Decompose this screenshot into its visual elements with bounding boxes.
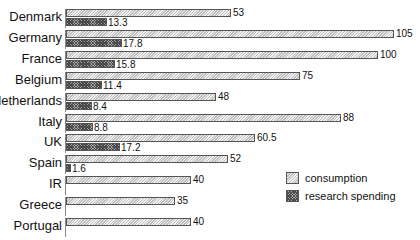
value-label-consumption: 60.5 (257, 133, 276, 143)
bar-consumption (66, 134, 255, 142)
category-label: Spain (29, 156, 62, 170)
bar-consumption (66, 155, 228, 163)
value-label-research-spending: 15.8 (116, 60, 135, 70)
legend-swatch-consumption (286, 172, 299, 184)
category-label: Belgium (15, 73, 62, 87)
bar-chart: Denmark5313.3Germany10517.8France10015.8… (0, 0, 420, 240)
bar-consumption (66, 9, 231, 17)
value-label-consumption: 35 (177, 196, 188, 206)
value-label-research-spending: 17.2 (121, 143, 140, 153)
category-label: UK (44, 135, 62, 149)
value-label-research-spending: 11.4 (103, 81, 122, 91)
legend-label-consumption: consumption (305, 172, 367, 184)
category-label: France (22, 52, 62, 66)
legend-swatch-research-spending (286, 190, 299, 202)
bar-research-spending (66, 102, 92, 110)
bar-consumption (66, 176, 191, 184)
bar-consumption (66, 93, 216, 101)
category-label: Denmark (9, 10, 62, 24)
value-label-consumption: 75 (302, 71, 313, 81)
value-label-research-spending: 1.6 (72, 164, 86, 174)
category-label: Portugal (14, 219, 62, 233)
bar-research-spending (66, 81, 102, 89)
bar-consumption (66, 30, 394, 38)
value-label-consumption: 40 (193, 217, 204, 227)
bar-research-spending (66, 60, 115, 68)
legend-label-research-spending: research spending (305, 190, 396, 202)
value-label-research-spending: 13.3 (108, 18, 127, 28)
value-label-consumption: 105 (396, 29, 413, 39)
value-label-consumption: 48 (218, 92, 229, 102)
bar-research-spending (66, 143, 120, 151)
value-label-consumption: 40 (193, 175, 204, 185)
value-label-consumption: 88 (343, 113, 354, 123)
category-label: Netherlands (0, 94, 62, 108)
category-label: Germany (9, 31, 62, 45)
bar-research-spending (66, 39, 122, 47)
bar-consumption (66, 51, 378, 59)
bar-consumption (66, 218, 191, 226)
value-label-research-spending: 17.8 (123, 39, 142, 49)
value-label-consumption: 100 (380, 50, 397, 60)
value-label-research-spending: 8.8 (94, 123, 108, 133)
category-label: IR (49, 177, 62, 191)
bar-research-spending (66, 18, 107, 26)
category-label: Italy (38, 115, 62, 129)
value-label-consumption: 53 (233, 8, 244, 18)
bar-consumption (66, 72, 300, 80)
bar-research-spending (66, 164, 71, 172)
bar-research-spending (66, 123, 93, 131)
category-label: Greece (19, 198, 62, 212)
bar-consumption (66, 197, 175, 205)
bar-consumption (66, 114, 341, 122)
value-label-consumption: 52 (230, 154, 241, 164)
value-label-research-spending: 8.4 (93, 102, 107, 112)
